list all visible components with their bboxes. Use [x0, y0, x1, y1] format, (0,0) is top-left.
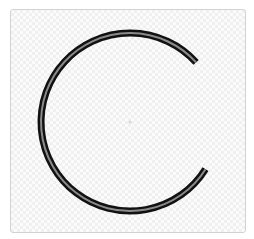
center-point-marker [128, 120, 131, 123]
canvas-panel [10, 9, 246, 233]
arc-inner-core [41, 33, 205, 211]
arc-drawing [11, 10, 246, 233]
